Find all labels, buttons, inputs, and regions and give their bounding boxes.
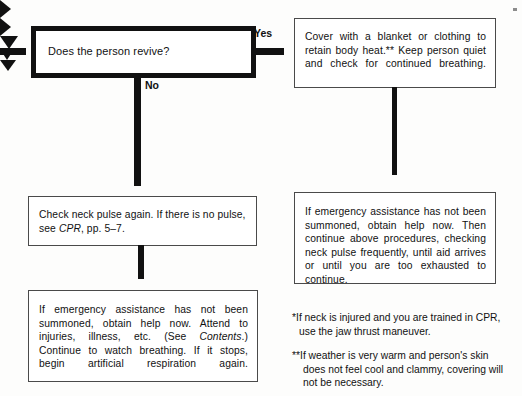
- process-node-emergency-right: If emergency assistance has not been sum…: [294, 192, 496, 284]
- emergency-left-reference-contents: Contents: [199, 331, 241, 342]
- yes-arrow-shaft: [254, 48, 284, 55]
- edge-label-yes: Yes: [254, 27, 272, 39]
- pulse-node-label: Check neck pulse again. If there is no p…: [39, 208, 247, 235]
- emergency-right-label: If emergency assistance has not been sum…: [305, 205, 486, 300]
- footnote-1-text: *If neck is injured and you are trained …: [292, 311, 507, 338]
- decision-node-revive: Does the person revive?: [31, 26, 256, 78]
- yes-arrow-head: [0, 18, 11, 36]
- footnote-single-asterisk: *If neck is injured and you are trained …: [292, 311, 507, 338]
- edge-label-no: No: [145, 79, 159, 91]
- footnote-2-text: **If weather is very warm and person's s…: [292, 349, 507, 390]
- decision-node-label: Does the person revive?: [48, 45, 242, 59]
- process-node-emergency-left: If emergency assistance has not been sum…: [28, 290, 258, 382]
- process-node-cover-with-blanket: Cover with a blanket or clothing to reta…: [294, 18, 496, 88]
- cover-to-emergency-arrow-shaft: [392, 87, 397, 175]
- page-edge-mark: [513, 8, 517, 11]
- entry-arrow-head: [0, 0, 11, 18]
- entry-arrow-shaft: [0, 48, 26, 55]
- flowchart-canvas: Does the person revive? Yes No Cover wit…: [0, 0, 522, 396]
- emergency-left-label: If emergency assistance has not been sum…: [39, 303, 248, 385]
- pulse-to-emergency-arrow-head: [0, 60, 16, 71]
- pulse-to-emergency-arrow-shaft: [138, 245, 144, 279]
- process-node-check-neck-pulse: Check neck pulse again. If there is no p…: [28, 196, 257, 246]
- no-arrow-shaft: [134, 76, 141, 186]
- pulse-reference-cpr: CPR: [59, 223, 81, 234]
- cover-node-label: Cover with a blanket or clothing to reta…: [305, 30, 486, 84]
- footnote-double-asterisk: **If weather is very warm and person's s…: [292, 349, 507, 390]
